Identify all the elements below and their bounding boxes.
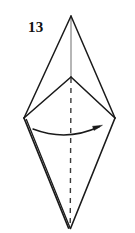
bipyramid-figure	[0, 0, 135, 233]
edge-middle-vertex-to-right-vertex	[71, 77, 115, 118]
edge-right-vertex-to-bottom-apex	[71, 118, 116, 229]
edge-left-vertex-to-bottom-apex-inner	[26, 120, 70, 229]
rotation-arrow-head-icon	[93, 125, 103, 130]
edge-middle-vertex-to-left-vertex	[24, 77, 71, 118]
figure-number-label: 13	[28, 18, 44, 36]
figure-container: 13	[0, 0, 135, 233]
axis-lower-dashed-line	[70, 78, 71, 227]
rotation-arrow-arc	[33, 127, 100, 135]
edge-top-apex-to-right-vertex	[71, 16, 115, 118]
